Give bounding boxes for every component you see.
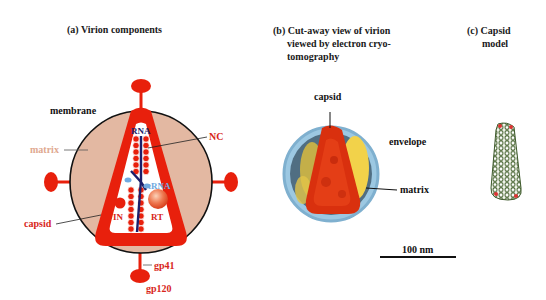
label-matrix: matrix xyxy=(30,144,59,155)
capsid-pentamer-bottom xyxy=(494,192,498,196)
label-in: IN xyxy=(113,212,123,223)
label-gp120: gp120 xyxy=(146,283,172,294)
panel-b-title-line-3: tomography xyxy=(287,51,339,63)
panel-c-title-line-2: model xyxy=(482,38,508,50)
label-trna: tRNA xyxy=(148,181,171,192)
label-b-envelope: envelope xyxy=(389,136,426,147)
label-gp41: gp41 xyxy=(154,260,175,271)
spike-right xyxy=(210,172,238,192)
capsid-pentamer-top xyxy=(498,124,502,128)
spike-left xyxy=(44,172,72,192)
virion-components-diagram xyxy=(0,0,546,300)
capsid-pentamer-bottom-2 xyxy=(514,194,518,198)
label-membrane: membrane xyxy=(50,105,96,116)
reverse-transcriptase-rt xyxy=(148,189,168,209)
label-nc: NC xyxy=(209,131,223,142)
trna-blob-1 xyxy=(125,178,132,183)
spike-top xyxy=(131,79,151,112)
cryo-tomography-image xyxy=(284,125,378,221)
label-rt: RT xyxy=(151,212,163,223)
integrase-in xyxy=(115,198,126,209)
capsid-model-image xyxy=(491,123,521,200)
capsid-pentamer-top-2 xyxy=(509,125,513,129)
scale-bar-label: 100 nm xyxy=(402,244,433,255)
label-capsid: capsid xyxy=(24,218,51,229)
panel-b-title-line-2: viewed by electron cryo- xyxy=(287,38,391,50)
spike-bottom-gp41-gp120 xyxy=(130,252,150,283)
panel-c-title-line-1: (c) Capsid xyxy=(467,25,511,37)
label-rna: RNA xyxy=(131,126,151,137)
label-b-matrix: matrix xyxy=(400,184,429,195)
label-b-capsid: capsid xyxy=(314,91,341,102)
panel-b-title-line-1: (b) Cut-away view of virion xyxy=(273,25,390,37)
